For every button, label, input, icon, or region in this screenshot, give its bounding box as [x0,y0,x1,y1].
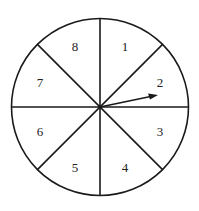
sector-label-7: 7 [37,75,44,90]
sector-label-4: 4 [122,160,129,175]
sector-label-3: 3 [157,124,164,139]
spinner-hub [98,105,101,108]
sector-label-8: 8 [72,39,79,54]
spinner-diagram: 12345678 [0,0,199,211]
sector-label-2: 2 [157,75,164,90]
sector-label-5: 5 [72,160,79,175]
sector-label-1: 1 [122,39,129,54]
sector-label-6: 6 [37,124,44,139]
